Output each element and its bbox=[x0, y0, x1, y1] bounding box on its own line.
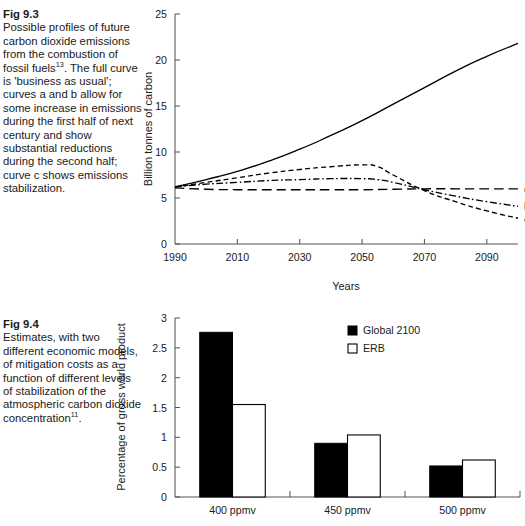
bar-400-ppmv-global-2100 bbox=[200, 332, 233, 497]
fig-9-3-caption-body-part2: . The full curve is 'business as usual';… bbox=[3, 62, 142, 195]
fig-9-3-caption-superscript: 13 bbox=[56, 60, 64, 69]
category-labels: 400 ppmv450 ppmv500 ppmv bbox=[209, 504, 486, 516]
curve-a bbox=[175, 165, 518, 219]
x-tick-marks bbox=[237, 239, 486, 244]
y-tick-label-25: 25 bbox=[155, 8, 167, 20]
y-tick-labels: 0510152025 bbox=[155, 8, 167, 250]
bar-450-ppmv-erb bbox=[348, 435, 381, 497]
legend: Global 2100ERB bbox=[348, 324, 420, 354]
y-axis-title: Percentage of gross world product bbox=[115, 323, 127, 491]
x-tick-label-2070: 2070 bbox=[413, 251, 437, 263]
fig-9-3-caption-heading: Fig 9.3 bbox=[3, 8, 143, 21]
y-tick-label-3: 3 bbox=[161, 312, 167, 324]
bar-500-ppmv-erb bbox=[463, 460, 496, 497]
bar-500-ppmv-global-2100 bbox=[430, 466, 463, 497]
x-tick-label-2090: 2090 bbox=[475, 251, 499, 263]
legend-swatch-erb bbox=[348, 344, 357, 353]
bars-group bbox=[200, 332, 496, 497]
legend-swatch-global-2100 bbox=[348, 326, 357, 335]
y-tick-marks bbox=[175, 318, 180, 497]
curve-c bbox=[175, 188, 518, 190]
y-tick-label-0.5: 0.5 bbox=[152, 461, 167, 473]
x-tick-label-2010: 2010 bbox=[226, 251, 250, 263]
x-tick-label-1990: 1990 bbox=[163, 251, 187, 263]
x-tick-label-2050: 2050 bbox=[350, 251, 374, 263]
x-tick-label-2030: 2030 bbox=[288, 251, 312, 263]
fig-9-3-caption: Fig 9.3Possible profiles of future carbo… bbox=[3, 8, 143, 196]
y-tick-label-10: 10 bbox=[155, 146, 167, 158]
y-tick-label-0: 0 bbox=[161, 238, 167, 250]
y-tick-label-0: 0 bbox=[161, 491, 167, 503]
y-axis-title: Billion tonnes of carbon bbox=[142, 72, 154, 186]
y-axis-group: 0510152025 Billion tonnes of carbon bbox=[142, 8, 180, 250]
y-tick-label-2: 2 bbox=[161, 372, 167, 384]
category-label-450-ppmv: 450 ppmv bbox=[324, 504, 371, 516]
data-curves bbox=[175, 43, 518, 218]
bar-450-ppmv-global-2100 bbox=[315, 443, 348, 497]
x-axis-title: Years bbox=[332, 280, 360, 292]
y-tick-label-1: 1 bbox=[161, 431, 167, 443]
y-tick-label-15: 15 bbox=[155, 100, 167, 112]
curve-b bbox=[175, 178, 518, 206]
bar-400-ppmv-erb bbox=[233, 405, 266, 497]
emissions-profiles-chart: 0510152025 Billion tonnes of carbon 1990… bbox=[140, 0, 525, 305]
mitigation-costs-svg: 00.511.522.53 Percentage of gross world … bbox=[108, 312, 525, 526]
x-axis-group: 199020102030205020702090 Years bbox=[163, 239, 518, 292]
y-tick-labels: 00.511.522.53 bbox=[152, 312, 167, 503]
mitigation-costs-chart: 00.511.522.53 Percentage of gross world … bbox=[108, 312, 525, 526]
emissions-profiles-svg: 0510152025 Billion tonnes of carbon 1990… bbox=[140, 0, 525, 305]
y-tick-label-2.5: 2.5 bbox=[152, 342, 167, 354]
fig-9-4-caption-body-part2: . bbox=[78, 412, 81, 424]
y-axis-group: 00.511.522.53 Percentage of gross world … bbox=[115, 312, 180, 503]
y-tick-label-5: 5 bbox=[161, 192, 167, 204]
category-label-400-ppmv: 400 ppmv bbox=[209, 504, 256, 516]
category-label-500-ppmv: 500 ppmv bbox=[439, 504, 486, 516]
legend-label-erb: ERB bbox=[363, 342, 385, 354]
y-tick-label-20: 20 bbox=[155, 54, 167, 66]
y-tick-marks bbox=[175, 14, 180, 244]
x-tick-labels: 199020102030205020702090 bbox=[163, 251, 498, 263]
legend-label-global-2100: Global 2100 bbox=[363, 324, 420, 336]
y-tick-label-1.5: 1.5 bbox=[152, 402, 167, 414]
